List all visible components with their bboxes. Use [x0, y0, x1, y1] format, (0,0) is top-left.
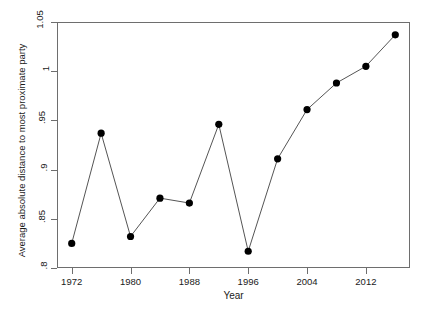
y-axis-tick	[51, 219, 57, 220]
data-point	[156, 195, 163, 202]
y-axis-tick-label: 1.05	[0, 14, 48, 25]
x-axis-tick-label: 1988	[167, 276, 211, 287]
data-point	[186, 199, 193, 206]
x-axis-tick-label: 1972	[50, 276, 94, 287]
chart-canvas: .8.85.9.9511.05 197219801988199620042012…	[0, 0, 425, 310]
x-axis-tick	[248, 268, 249, 274]
data-point	[245, 248, 252, 255]
data-point	[274, 155, 281, 162]
x-axis-tick	[189, 268, 190, 274]
data-point	[333, 79, 340, 86]
series-point-group	[68, 31, 399, 255]
data-point	[215, 121, 222, 128]
data-point	[127, 233, 134, 240]
y-axis-tick	[51, 120, 57, 121]
series-line	[72, 35, 396, 251]
x-axis-tick-label: 1980	[109, 276, 153, 287]
data-point	[68, 240, 75, 247]
x-axis-tick	[366, 268, 367, 274]
data-point	[362, 63, 369, 70]
data-point	[392, 31, 399, 38]
y-axis-tick	[51, 22, 57, 23]
y-axis-tick	[51, 170, 57, 171]
x-axis-tick	[72, 268, 73, 274]
x-axis-tick	[131, 268, 132, 274]
x-axis-tick-label: 2004	[285, 276, 329, 287]
data-point	[98, 130, 105, 137]
data-series-layer	[57, 22, 410, 268]
data-point	[303, 106, 310, 113]
y-axis-title: Average absolute distance to most proxim…	[16, 26, 27, 276]
x-axis-tick-label: 1996	[226, 276, 270, 287]
x-axis-tick-label: 2012	[344, 276, 388, 287]
x-axis-title: Year	[57, 290, 410, 301]
x-axis-tick	[307, 268, 308, 274]
y-axis-tick	[51, 268, 57, 269]
y-axis-tick	[51, 71, 57, 72]
